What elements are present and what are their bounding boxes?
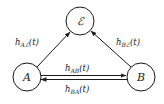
diagram-canvas: ℰ A B hAℰ(t) hBℰ(t) hAB(t) hBA(t): [0, 0, 164, 104]
edge-label-a-e: hAℰ(t): [15, 37, 39, 48]
edge-label-a-b: hAB(t): [65, 63, 89, 74]
label-arg: (t): [130, 37, 140, 47]
label-arg: (t): [79, 63, 89, 73]
node-e: ℰ: [66, 7, 94, 35]
node-b-label: B: [136, 71, 145, 84]
edge-label-b-a: hBA(t): [65, 84, 89, 95]
node-a: A: [13, 63, 41, 91]
node-b: B: [127, 63, 155, 91]
edge-a-to-e: [37, 32, 70, 67]
node-e-label: ℰ: [77, 15, 85, 28]
edge-label-b-e: hBℰ(t): [116, 37, 140, 48]
node-a-label: A: [22, 71, 31, 84]
edge-b-to-e: [91, 31, 131, 67]
label-arg: (t): [79, 84, 89, 94]
label-arg: (t): [29, 37, 39, 47]
